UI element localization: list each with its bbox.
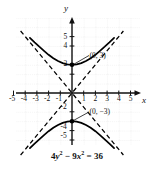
x-axis-label: x xyxy=(142,96,146,105)
y-tick-label: 4 xyxy=(64,42,68,50)
equation-b-exponent: 2 xyxy=(81,150,84,156)
y-tick-label: -5 xyxy=(61,132,67,140)
y-tick-label: -2 xyxy=(61,103,67,111)
x-tick-label: 1 xyxy=(82,95,86,103)
x-tick-label: -2 xyxy=(44,95,50,103)
point-label-upper-vertex: (0, 3) xyxy=(90,52,106,60)
point-label-lower-vertex: (0, −3) xyxy=(90,108,110,116)
y-axis-label: y xyxy=(64,4,68,13)
x-tick-label: -4 xyxy=(21,95,27,103)
equation-equals-sign: = xyxy=(87,151,92,161)
equation-caption: 4y2 − 9x2 = 36 xyxy=(0,152,154,161)
y-tick-label: 5 xyxy=(64,33,68,41)
y-tick-label: 2 xyxy=(64,60,68,68)
equation-right-hand-side: 36 xyxy=(94,151,103,161)
vertex-point-lower xyxy=(70,119,75,124)
x-tick-label: -3 xyxy=(32,95,38,103)
equation-a-exponent: 2 xyxy=(60,150,63,156)
vertex-point-upper xyxy=(70,63,75,68)
x-tick-label: 2 xyxy=(94,95,98,103)
x-tick-label: -1 xyxy=(56,95,62,103)
y-tick-label: -4 xyxy=(61,123,67,131)
grid-background xyxy=(16,18,140,145)
x-tick-label: 5 xyxy=(129,95,133,103)
hyperbola-graph-figure: y x -5 -4 -3 -2 -1 1 2 3 4 5 5 4 2 -2 -4… xyxy=(0,0,154,175)
graph-canvas xyxy=(0,0,154,175)
equation-operator: − xyxy=(65,151,70,161)
x-tick-label: 4 xyxy=(117,95,121,103)
x-tick-label: 3 xyxy=(105,95,109,103)
x-tick-label: -5 xyxy=(9,95,15,103)
